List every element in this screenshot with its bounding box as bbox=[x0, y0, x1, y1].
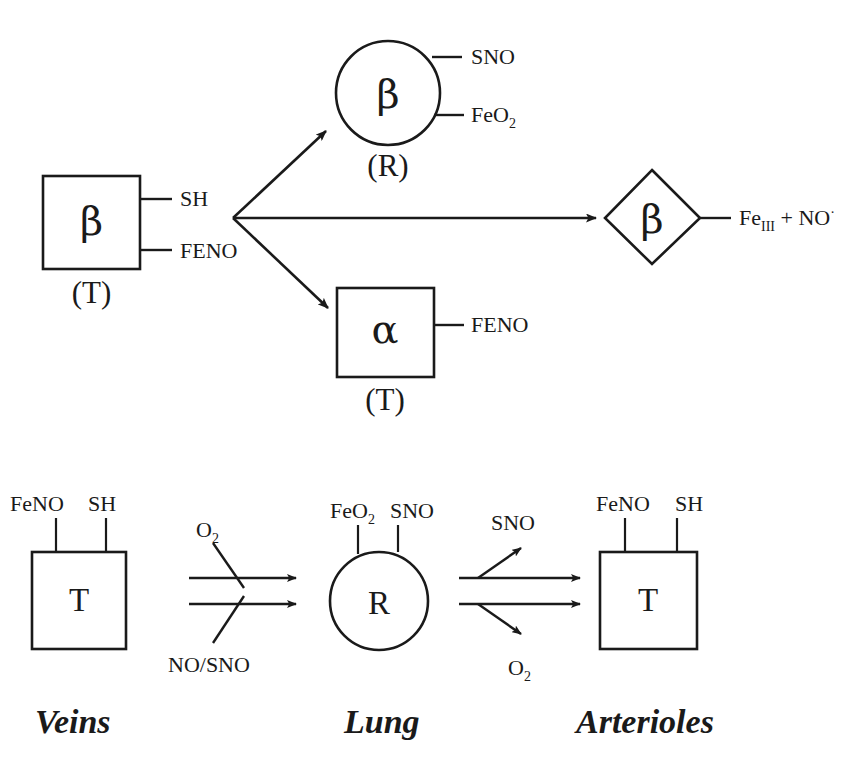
top-source-subunit: β bbox=[80, 198, 103, 244]
top-source-ligand-feno: FENO bbox=[180, 238, 237, 263]
top-source-ligand-sh: SH bbox=[180, 186, 208, 211]
top-circle-ligand-sno: SNO bbox=[471, 44, 515, 69]
lung-stem-label-sno: SNO bbox=[390, 498, 434, 523]
top-product-label: FeIII + NO· bbox=[739, 205, 835, 234]
veins-stem-label-feno: FeNO bbox=[10, 491, 64, 516]
top-product-label-tail: + NO bbox=[775, 205, 830, 230]
top-circle-ligand-feo2-base: FeO bbox=[471, 102, 509, 127]
top-product-subunit: β bbox=[640, 196, 663, 242]
veins-stem-label-sh: SH bbox=[88, 491, 116, 516]
top-alpha-ligand-feno: FENO bbox=[471, 312, 528, 337]
caption-lung: Lung bbox=[343, 703, 420, 740]
veins-lung-inflow-nosno-label: NO/SNO bbox=[168, 652, 250, 677]
lung-arterioles-outflow-sno-label: SNO bbox=[491, 510, 535, 535]
lung-node-letter: R bbox=[368, 585, 390, 621]
caption-veins: Veins bbox=[35, 703, 111, 740]
lung-stem-label-feo2: FeO2 bbox=[330, 498, 375, 527]
top-circle-ligand-feo2: FeO2 bbox=[471, 102, 516, 131]
veins-lung-inflow-o2-label: O2 bbox=[196, 517, 219, 546]
lung-arterioles-outflow-o2-label: O2 bbox=[508, 655, 531, 684]
top-product-label-base: Fe bbox=[739, 205, 761, 230]
arterioles-node-letter: T bbox=[638, 582, 658, 618]
top-product-label-sub: III bbox=[761, 219, 775, 234]
top-source-state: (T) bbox=[72, 275, 112, 310]
top-branch-square-subunit: α bbox=[371, 306, 398, 352]
lung-arterioles-outflow-o2-arrow bbox=[478, 604, 521, 634]
branch-arrow-down bbox=[233, 218, 328, 308]
top-product-label-radical: · bbox=[830, 205, 835, 220]
veins-lung-inflow-o2-sub: 2 bbox=[212, 531, 219, 546]
diagram-canvas: β (T) SH FENO β (R) SNO FeO2 α (T) FENO … bbox=[0, 0, 862, 766]
branch-arrow-up bbox=[233, 131, 326, 218]
top-branch-circle-subunit: β bbox=[376, 71, 399, 117]
lung-arterioles-outflow-o2-base: O bbox=[508, 655, 524, 680]
top-branch-square-state: (T) bbox=[365, 382, 405, 417]
top-circle-ligand-feo2-sub: 2 bbox=[509, 116, 516, 131]
arterioles-stem-label-feno: FeNO bbox=[596, 491, 650, 516]
veins-node-letter: T bbox=[69, 582, 89, 618]
lung-stem-label-feo2-base: FeO bbox=[330, 498, 368, 523]
top-branch-circle-state: (R) bbox=[367, 148, 408, 183]
arterioles-stem-label-sh: SH bbox=[675, 491, 703, 516]
figure-root: β (T) SH FENO β (R) SNO FeO2 α (T) FENO … bbox=[0, 0, 862, 766]
caption-arterioles: Arterioles bbox=[574, 703, 714, 740]
veins-lung-inflow-o2-base: O bbox=[196, 517, 212, 542]
veins-lung-inflow-o2-line bbox=[213, 543, 244, 588]
lung-arterioles-outflow-o2-sub: 2 bbox=[524, 669, 531, 684]
lung-stem-label-feo2-sub: 2 bbox=[368, 512, 375, 527]
lung-arterioles-outflow-sno-arrow bbox=[478, 548, 521, 578]
